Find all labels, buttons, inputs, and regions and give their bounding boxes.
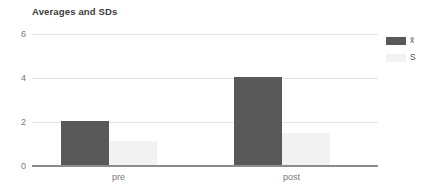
gridline <box>32 78 378 79</box>
chart-legend: x̄S <box>386 33 429 67</box>
legend-swatch-icon <box>386 54 406 62</box>
gridline <box>32 34 378 35</box>
x-axis-line <box>32 165 378 167</box>
legend-label: S <box>410 53 416 62</box>
y-axis-tick-label: 4 <box>4 73 26 83</box>
y-axis-tick-labels: 0246 <box>0 34 26 166</box>
bar-pre-mean[interactable] <box>61 121 109 166</box>
y-axis-tick-label: 0 <box>4 161 26 171</box>
y-axis-tick-label: 6 <box>4 29 26 39</box>
x-axis-tick-label: post <box>205 172 378 182</box>
bar-chart: Averages and SDs 0246 prepost x̄S <box>0 0 429 194</box>
legend-item-mean[interactable]: x̄ <box>386 33 429 48</box>
bar-post-mean[interactable] <box>234 77 282 166</box>
chart-title: Averages and SDs <box>32 6 117 17</box>
bar-pre-sd[interactable] <box>109 141 157 166</box>
bar-post-sd[interactable] <box>282 133 330 166</box>
legend-swatch-icon <box>386 37 406 45</box>
legend-item-sd[interactable]: S <box>386 50 429 65</box>
legend-label: x̄ <box>410 36 414 45</box>
y-axis-tick-label: 2 <box>4 117 26 127</box>
x-axis-tick-label: pre <box>32 172 205 182</box>
plot-area <box>32 34 378 166</box>
